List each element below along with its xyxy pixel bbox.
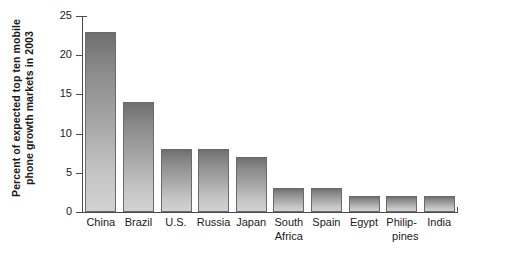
bar bbox=[85, 32, 116, 212]
x-axis-tick-label-line: U.S. bbox=[165, 216, 186, 228]
x-axis-tick-label: Spain bbox=[308, 216, 346, 230]
x-axis-tick-label: India bbox=[420, 216, 458, 230]
bar bbox=[198, 149, 229, 212]
bar-chart-figure: Percent of expected top ten mobile phone… bbox=[0, 0, 507, 260]
x-axis-labels: ChinaBrazilU.S.RussiaJapanSouthAfricaSpa… bbox=[82, 216, 458, 260]
bar bbox=[386, 196, 417, 212]
y-axis-title: Percent of expected top ten mobile phone… bbox=[0, 0, 46, 215]
x-axis-tick-label-line: Russia bbox=[197, 216, 231, 228]
y-axis-tick bbox=[76, 212, 82, 213]
bar bbox=[273, 188, 304, 212]
y-axis-tick-label: 0 bbox=[46, 205, 72, 217]
bar bbox=[424, 196, 455, 212]
x-axis-tick-label: China bbox=[82, 216, 120, 230]
x-axis-tick-label-line: Philip- bbox=[386, 216, 417, 228]
y-axis-tick-label: 15 bbox=[46, 87, 72, 99]
x-axis-tick-label: Brazil bbox=[120, 216, 158, 230]
x-axis-tick-label-line: pines bbox=[383, 230, 421, 244]
y-axis-tick-label: 20 bbox=[46, 48, 72, 60]
y-axis-title-line-2: phone growth markets in 2003 bbox=[23, 19, 36, 197]
x-axis-tick-label: Egypt bbox=[345, 216, 383, 230]
x-axis-tick-label: Philip-pines bbox=[383, 216, 421, 243]
x-axis-tick-label-line: Africa bbox=[270, 230, 308, 244]
x-axis-tick-label-line: China bbox=[86, 216, 115, 228]
bar bbox=[123, 102, 154, 212]
y-axis-tick-label: 5 bbox=[46, 166, 72, 178]
x-axis-tick-label-line: Spain bbox=[312, 216, 340, 228]
x-axis-tick-label: SouthAfrica bbox=[270, 216, 308, 243]
bar bbox=[236, 157, 267, 212]
y-axis-title-line-1: Percent of expected top ten mobile bbox=[10, 19, 23, 197]
x-axis-tick-label: U.S. bbox=[157, 216, 195, 230]
x-axis-tick-label: Russia bbox=[195, 216, 233, 230]
bar bbox=[161, 149, 192, 212]
bars-group bbox=[82, 16, 458, 212]
x-axis-tick-label-line: Japan bbox=[236, 216, 266, 228]
x-axis-tick-label-line: Brazil bbox=[125, 216, 153, 228]
bar bbox=[349, 196, 380, 212]
x-axis-tick-label-line: India bbox=[427, 216, 451, 228]
x-axis-tick-label: Japan bbox=[232, 216, 270, 230]
y-axis-tick-label: 10 bbox=[46, 127, 72, 139]
x-axis-tick-label-line: Egypt bbox=[350, 216, 378, 228]
bar bbox=[311, 188, 342, 212]
x-axis-tick-label-line: South bbox=[274, 216, 303, 228]
y-axis-tick-label: 25 bbox=[46, 9, 72, 21]
x-axis-line bbox=[82, 212, 458, 213]
